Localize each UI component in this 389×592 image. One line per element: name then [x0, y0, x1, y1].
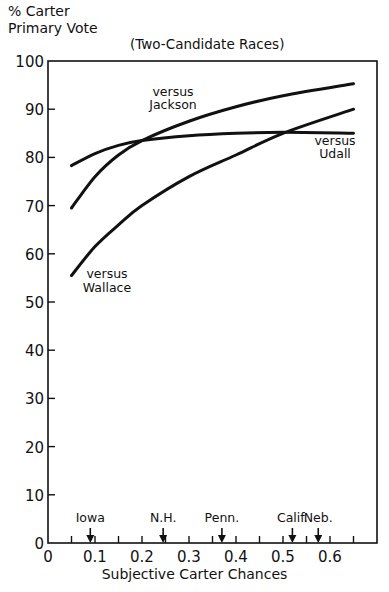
- y-tick-label: 10: [25, 487, 44, 505]
- state-label-penn: Penn.: [205, 510, 240, 525]
- x-tick-label: 0.2: [130, 548, 154, 566]
- y-tick-label: 50: [25, 294, 44, 312]
- arrow-down-icon: [86, 535, 94, 543]
- y-tick-label: 20: [25, 439, 44, 457]
- wallace-label-name: Wallace: [83, 280, 132, 295]
- state-label-neb: Neb.: [304, 510, 333, 525]
- y-tick-label: 60: [25, 246, 44, 264]
- arrow-down-icon: [288, 535, 296, 543]
- y-tick-label: 100: [15, 53, 44, 71]
- x-tick-label: 0.5: [271, 548, 295, 566]
- x-tick-label: 0: [43, 548, 53, 566]
- y-tick-label: 80: [25, 149, 44, 167]
- chart-canvas: 010203040506070809010000.10.20.30.40.50.…: [0, 0, 389, 592]
- x-tick-label: 0.6: [318, 548, 342, 566]
- x-tick-label: 0.4: [224, 548, 248, 566]
- state-label-nh: N.H.: [150, 510, 176, 525]
- arrow-down-icon: [218, 535, 226, 543]
- x-tick-label: 0.3: [177, 548, 201, 566]
- arrow-down-icon: [314, 535, 322, 543]
- y-tick-label: 90: [25, 101, 44, 119]
- x-tick-label: 0.1: [83, 548, 107, 566]
- y-tick-label: 40: [25, 342, 44, 360]
- state-label-iowa: Iowa: [76, 510, 105, 525]
- y-tick-label: 70: [25, 198, 44, 216]
- udall-label-name: Udall: [319, 146, 351, 161]
- wallace-label-versus: versus: [86, 266, 127, 281]
- x-axis-label: Subjective Carter Chances: [0, 566, 389, 582]
- jackson-label-name: Jackson: [148, 97, 197, 112]
- y-tick-label: 30: [25, 390, 44, 408]
